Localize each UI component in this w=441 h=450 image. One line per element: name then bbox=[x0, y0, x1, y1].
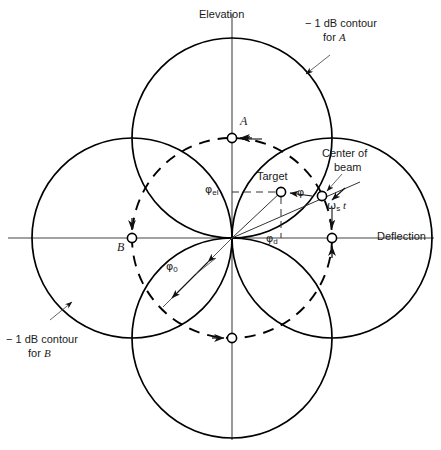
target-label: Target bbox=[257, 170, 288, 184]
contour-b-leader bbox=[50, 302, 72, 320]
omega-s-base: ω bbox=[327, 199, 336, 212]
phi-el-sub: el bbox=[212, 188, 218, 197]
center-of-beam-line1: Center of bbox=[322, 147, 367, 159]
contour-a-annotation: − 1 dB contour for A bbox=[305, 17, 405, 45]
point-a-label: A bbox=[240, 114, 247, 129]
contour-a-leader bbox=[306, 55, 330, 74]
phi0-leader bbox=[196, 258, 216, 274]
center-of-beam-line2: beam bbox=[322, 160, 362, 174]
marker-point-a bbox=[227, 133, 236, 142]
contour-b-line1: − 1 dB contour bbox=[6, 333, 78, 345]
phi-deflection-label: φd bbox=[266, 232, 278, 247]
point-b-label: B bbox=[117, 240, 124, 255]
figure-canvas: Elevation Deflection − 1 dB contour for … bbox=[0, 0, 441, 450]
contour-a-line1: − 1 dB contour bbox=[305, 17, 377, 29]
marker-point-right bbox=[327, 233, 336, 242]
contour-a-line2: for A bbox=[305, 31, 346, 45]
marker-point-b bbox=[127, 233, 136, 242]
elevation-axis-label: Elevation bbox=[199, 8, 244, 22]
center-of-beam-annotation: Center of beam bbox=[322, 146, 392, 175]
phi-d-sub: d bbox=[273, 237, 277, 246]
phi-squint-label: φ0 bbox=[166, 260, 178, 275]
axis-lines bbox=[8, 14, 434, 440]
deflection-axis-label: Deflection bbox=[377, 230, 426, 244]
center-of-beam-leader bbox=[327, 174, 342, 191]
marker-center-of-beam bbox=[317, 191, 326, 200]
phi-target-label: φ bbox=[297, 186, 304, 200]
marker-target bbox=[276, 187, 285, 196]
contour-b-annotation: − 1 dB contour for B bbox=[6, 333, 126, 361]
phi-elevation-label: φel bbox=[205, 183, 219, 198]
phi-target-base: φ bbox=[297, 186, 304, 199]
phi0-sub: 0 bbox=[173, 265, 177, 274]
marker-point-bottom bbox=[227, 333, 236, 342]
scan-phase-tail: t bbox=[343, 199, 346, 211]
scan-phase-label: ωs t bbox=[327, 199, 346, 214]
diagram-svg bbox=[0, 0, 441, 450]
contour-b-line2: for B bbox=[6, 347, 51, 361]
